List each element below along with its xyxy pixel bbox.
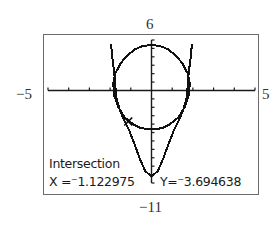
graph-plot — [0, 0, 279, 229]
readout-y-value: Y=⁻3.694638 — [160, 176, 241, 189]
readout-title: Intersection — [49, 158, 120, 171]
readout-x-value: X =⁻1.122975 — [49, 176, 135, 189]
